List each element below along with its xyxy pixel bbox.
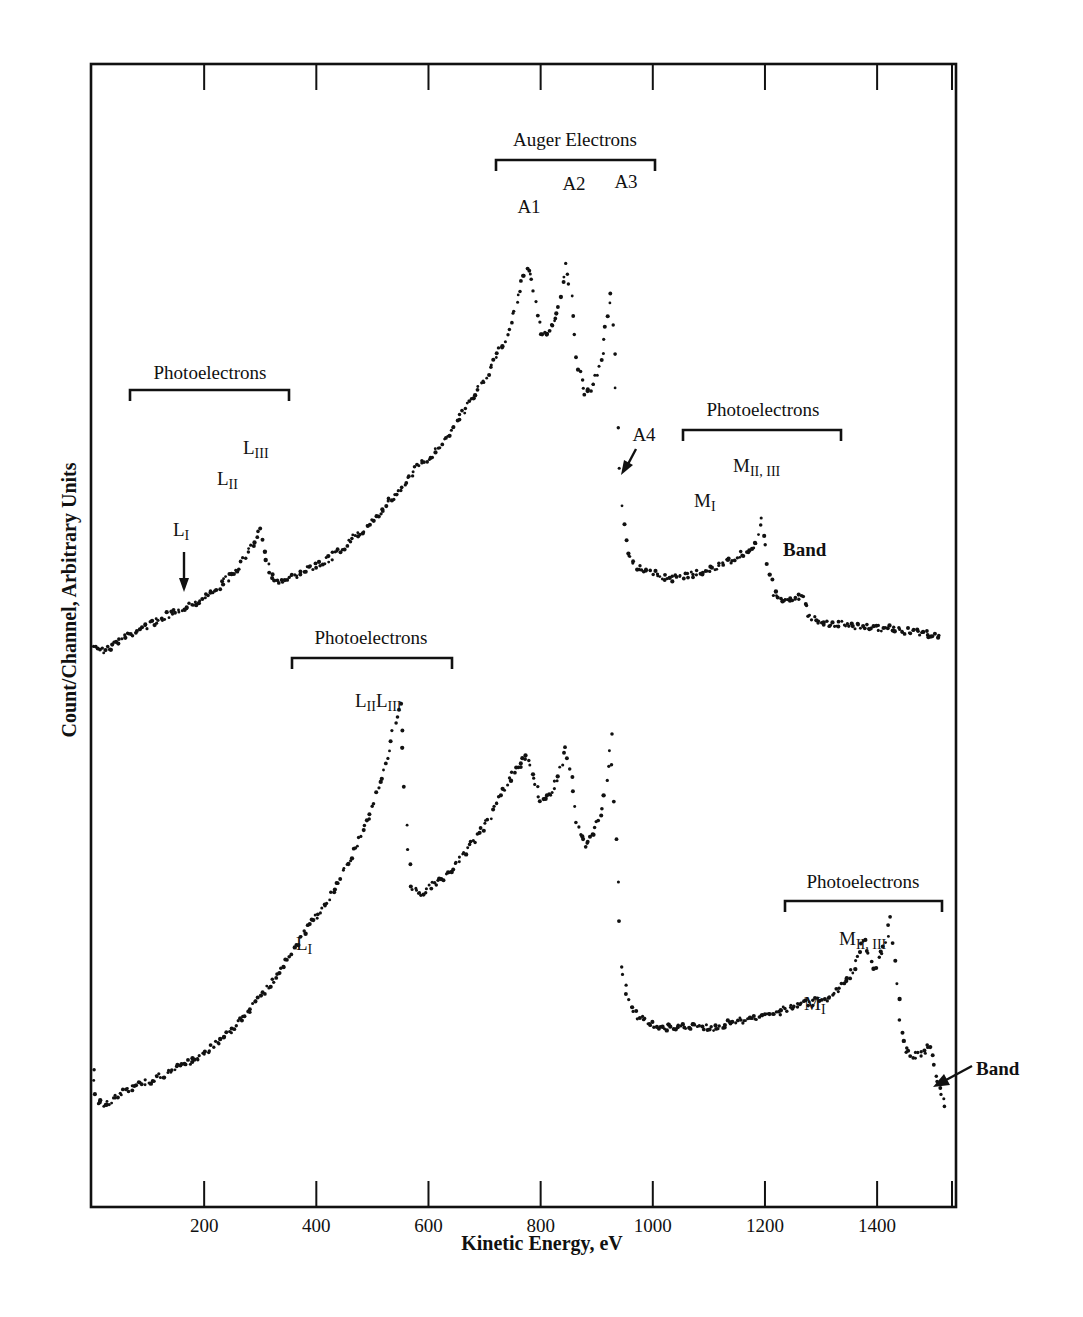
data-point [837, 620, 841, 624]
data-point [874, 966, 878, 970]
data-point [329, 891, 333, 895]
band-label: Band [783, 539, 827, 560]
data-point [888, 915, 892, 919]
data-point [584, 845, 588, 849]
data-point [392, 498, 395, 501]
data-point [117, 637, 121, 641]
data-point [367, 812, 371, 816]
l1-label: LI [296, 933, 313, 957]
data-point [289, 953, 293, 957]
data-point [389, 739, 393, 743]
data-point [550, 323, 554, 327]
y-axis-title: Count/Channel, Arbitrary Units [58, 462, 81, 737]
data-point [886, 923, 890, 927]
data-point [670, 579, 674, 583]
data-point [702, 1028, 706, 1032]
data-point [415, 889, 418, 892]
data-point [222, 1035, 226, 1039]
data-point [506, 333, 509, 336]
data-point [527, 269, 531, 273]
data-point [887, 623, 891, 627]
data-point [925, 629, 929, 633]
data-point [705, 1023, 708, 1026]
data-point [200, 597, 204, 601]
data-point [239, 560, 243, 564]
data-point [898, 1018, 902, 1022]
data-point [622, 522, 626, 526]
data-point [387, 497, 391, 501]
data-point [454, 861, 457, 864]
data-point [752, 1014, 756, 1018]
data-point [198, 1054, 201, 1057]
data-point [599, 813, 603, 817]
data-point [549, 794, 552, 797]
data-point [500, 344, 504, 348]
data-point [263, 992, 267, 996]
a4-label: A4 [632, 424, 656, 445]
data-point [779, 1008, 783, 1012]
data-point [140, 1082, 144, 1086]
data-point [837, 986, 841, 990]
data-point [377, 786, 380, 789]
data-point [935, 1075, 938, 1078]
data-point [574, 355, 578, 359]
data-point [333, 887, 337, 891]
data-point [428, 884, 431, 887]
photoelectrons-bracket [292, 658, 452, 669]
data-point [892, 626, 895, 629]
spectrum-chart: 200400600800100012001400 Kinetic Energy,… [0, 0, 1083, 1317]
data-point [561, 763, 564, 766]
data-point [177, 611, 180, 614]
x-tick-label: 1400 [858, 1215, 896, 1236]
data-point [755, 1018, 758, 1021]
data-point [422, 460, 426, 464]
data-point [170, 1068, 174, 1072]
data-point [120, 637, 123, 640]
data-point [938, 1086, 942, 1090]
data-point [727, 557, 731, 561]
data-point [343, 867, 346, 870]
data-point [562, 280, 566, 284]
data-point [319, 911, 322, 914]
data-point [336, 881, 340, 885]
data-point [538, 320, 541, 323]
l3-label: LIII [243, 437, 269, 461]
data-point [689, 1027, 693, 1031]
l1-label: LI [173, 519, 190, 543]
data-point [237, 567, 241, 571]
x-tick-label: 200 [190, 1215, 219, 1236]
data-point [582, 393, 586, 397]
data-point [752, 547, 755, 550]
data-point [556, 774, 560, 778]
data-point [556, 305, 560, 309]
band-arrow [946, 1066, 972, 1080]
data-point [448, 434, 452, 438]
data-point [492, 805, 495, 808]
data-point [120, 1093, 123, 1096]
data-point [134, 1083, 138, 1087]
photoelectrons-label: Photoelectrons [154, 362, 267, 383]
data-point [739, 550, 743, 554]
data-point [140, 625, 144, 629]
data-point [221, 582, 225, 586]
x-axis-ticks-bottom [204, 1181, 952, 1207]
data-point [485, 377, 488, 380]
data-point [581, 378, 585, 382]
data-point [363, 824, 367, 828]
data-point [163, 618, 166, 621]
data-point [349, 540, 352, 543]
data-point [362, 530, 365, 533]
data-point [523, 757, 527, 761]
data-point [665, 1028, 669, 1032]
data-point [614, 387, 617, 390]
data-point [710, 1025, 713, 1028]
data-point [650, 1020, 654, 1024]
data-point [157, 1072, 160, 1075]
data-point [388, 749, 391, 752]
data-point [708, 570, 711, 573]
data-point [495, 351, 499, 355]
data-point [767, 1012, 771, 1016]
data-point [249, 544, 252, 547]
data-point [651, 573, 654, 576]
data-point [212, 1046, 215, 1049]
